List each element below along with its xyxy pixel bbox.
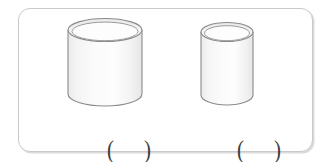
figure-cylinder-left: () <box>65 19 143 145</box>
figure-cylinder-right: () <box>195 19 255 145</box>
worksheet-canvas: () <box>0 0 332 162</box>
cylinder-left-graphic <box>65 19 145 115</box>
close-paren-right: ) <box>274 138 281 162</box>
answer-slot-left[interactable]: () <box>65 119 143 162</box>
open-paren-right: ( <box>237 138 244 162</box>
cylinder-right-graphic <box>198 19 256 115</box>
worksheet-panel: () <box>18 8 313 152</box>
answer-slot-right[interactable]: () <box>195 119 259 162</box>
close-paren-left: ) <box>144 138 151 162</box>
open-paren-left: ( <box>107 138 114 162</box>
